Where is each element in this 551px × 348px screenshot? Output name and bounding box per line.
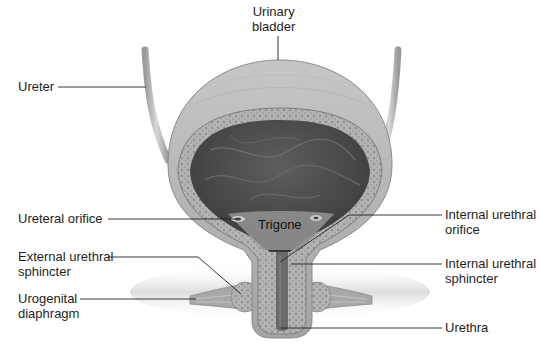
bladder-illustration — [0, 0, 551, 348]
label-trigone: Trigone — [258, 217, 302, 232]
label-ureteral-orifice: Ureteral orifice — [18, 211, 103, 226]
label-urinary-bladder: Urinary bladder — [252, 4, 295, 34]
urethra-shape — [276, 252, 288, 331]
bladder-anatomy-figure: Urinary bladder Ureter Ureteral orifice … — [0, 0, 551, 348]
label-internal-urethral-orifice: Internal urethral orifice — [445, 207, 536, 237]
label-urethra: Urethra — [445, 320, 488, 335]
label-ureter: Ureter — [18, 79, 54, 94]
label-internal-urethral-sphincter: Internal urethral sphincter — [445, 256, 536, 286]
label-urogenital-diaphragm: Urogenital diaphragm — [18, 291, 79, 321]
ureter-left — [145, 50, 168, 160]
label-external-urethral-sphincter: External urethral sphincter — [18, 249, 113, 279]
